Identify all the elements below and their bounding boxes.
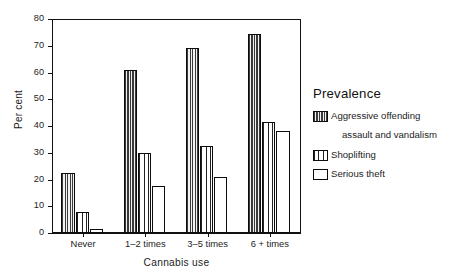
legend-title: Prevalence <box>313 86 449 101</box>
x-tick <box>270 233 271 237</box>
y-tick-label: 20 <box>22 175 44 184</box>
legend-item-label: Serious theft <box>331 168 385 179</box>
bar-chart-figure: Per cent 01020304050607080 Never1–2 time… <box>0 0 449 277</box>
legend-item-sublabel: assault and vandalism <box>342 129 449 140</box>
legend-item-label: Aggressive offending <box>331 110 420 121</box>
y-tick-label: 50 <box>22 94 44 103</box>
x-tick <box>83 233 84 237</box>
bar <box>262 122 275 233</box>
bar <box>124 70 137 233</box>
bar <box>214 177 227 233</box>
y-tick-label: 0 <box>22 228 44 237</box>
x-axis-title: Cannabis use <box>52 257 301 268</box>
bar <box>152 186 165 233</box>
y-tick-label: 60 <box>22 68 44 77</box>
medium-hatch-swatch-icon <box>313 150 328 161</box>
y-tick-label: 10 <box>22 201 44 210</box>
bar <box>138 153 151 233</box>
bar <box>248 34 261 233</box>
y-tick-label: 80 <box>22 14 44 23</box>
legend-item-serious-theft: Serious theft <box>313 168 449 180</box>
x-tick <box>145 233 146 237</box>
y-tick <box>48 233 53 234</box>
bar <box>76 212 89 233</box>
legend-item-aggressive-offending: Aggressive offending <box>313 110 449 122</box>
dense-hatch-swatch-icon <box>313 111 328 122</box>
bar <box>186 48 199 233</box>
bar <box>276 131 289 233</box>
bar <box>90 229 103 233</box>
bar <box>61 173 74 233</box>
bars-layer <box>52 19 301 233</box>
x-axis-line <box>52 233 301 234</box>
bar <box>200 146 213 233</box>
y-axis-title: Per cent <box>13 80 24 140</box>
legend-item-label: Shoplifting <box>331 149 376 160</box>
legend: Prevalence Aggressive offending assault … <box>313 86 449 187</box>
x-tick-label: 6 + times <box>230 238 310 249</box>
y-tick-label: 30 <box>22 148 44 157</box>
y-tick-label: 40 <box>22 121 44 130</box>
legend-item-shoplifting: Shoplifting <box>313 149 449 161</box>
y-tick-label: 70 <box>22 41 44 50</box>
open-swatch-icon <box>313 169 328 180</box>
x-tick <box>208 233 209 237</box>
